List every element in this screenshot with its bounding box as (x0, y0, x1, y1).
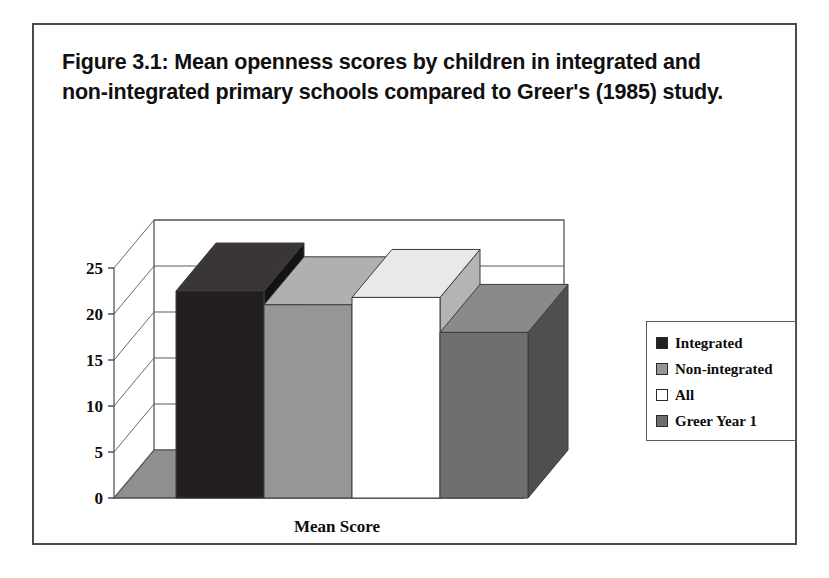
legend-swatch-greer-year-1 (656, 415, 668, 427)
legend-item-non-integrated: Non-integrated (656, 356, 795, 382)
legend-label-integrated: Integrated (675, 335, 743, 352)
legend-item-integrated: Integrated (656, 330, 795, 356)
legend-swatch-non-integrated (656, 363, 668, 375)
figure-frame: Figure 3.1: Mean openness scores by chil… (32, 23, 797, 545)
figure-title: Figure 3.1: Mean openness scores by chil… (62, 47, 752, 107)
bar-front-face (440, 332, 528, 498)
axis-depth-edge (114, 266, 154, 314)
bar-front-face (352, 297, 440, 498)
y-axis-tick-label: 25 (86, 259, 103, 278)
axis-depth-edge (114, 404, 154, 452)
legend-swatch-integrated (656, 337, 668, 349)
x-axis-label: Mean Score (294, 517, 381, 535)
bar-chart: 0510152025Mean Score (56, 165, 656, 535)
chart-canvas: 0510152025Mean Score (56, 165, 656, 535)
axis-depth-edge (114, 358, 154, 406)
y-axis-tick-label: 15 (86, 351, 103, 370)
axis-depth-edge (114, 220, 154, 268)
legend-swatch-all (656, 389, 668, 401)
bar-front-face (264, 305, 352, 498)
legend-label-non-integrated: Non-integrated (675, 361, 773, 378)
legend-item-greer-year-1: Greer Year 1 (656, 408, 795, 434)
legend-item-all: All (656, 382, 795, 408)
legend-label-greer-year-1: Greer Year 1 (675, 413, 757, 430)
legend-label-all: All (675, 387, 694, 404)
bar-column (440, 284, 568, 498)
y-axis-tick-label: 0 (95, 489, 104, 508)
bar-front-face (176, 291, 264, 498)
y-axis-tick-label: 10 (86, 397, 103, 416)
y-axis-tick-label: 5 (95, 443, 104, 462)
chart-legend: Integrated Non-integrated All Greer Year… (646, 321, 796, 441)
y-axis-tick-label: 20 (86, 305, 103, 324)
axis-depth-edge (114, 312, 154, 360)
